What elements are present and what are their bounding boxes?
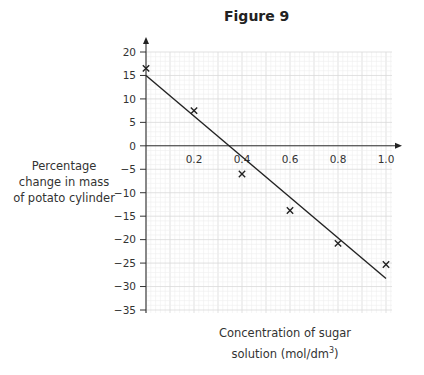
x-tick-label: 1.0 <box>378 153 395 165</box>
y-tick-label: −10 <box>114 187 136 199</box>
y-tick-label: 20 <box>123 46 136 58</box>
y-axis-arrow-icon <box>143 37 149 44</box>
x-tick-label: 0.8 <box>330 153 347 165</box>
y-tick-label: 10 <box>123 93 136 105</box>
grid <box>146 52 392 313</box>
y-tick-label: −5 <box>121 163 136 175</box>
y-tick-label: 5 <box>129 116 136 128</box>
x-tick-label: 0.6 <box>282 153 299 165</box>
y-tick-label: −20 <box>114 233 136 245</box>
x-tick-label: 0.4 <box>234 153 251 165</box>
y-tick-label: −30 <box>114 280 136 292</box>
y-tick-label: 0 <box>129 140 136 152</box>
x-tick-label: 0.2 <box>186 153 203 165</box>
y-tick-label: −35 <box>114 304 136 316</box>
y-tick-label: −25 <box>114 257 136 269</box>
y-tick-label: 15 <box>123 69 136 81</box>
x-axis-arrow-icon <box>395 143 402 149</box>
y-tick-label: −15 <box>114 210 136 222</box>
chart-plot: 20151050−5−10−15−20−25−30−350.20.40.60.8… <box>0 0 424 375</box>
axes <box>143 37 402 313</box>
